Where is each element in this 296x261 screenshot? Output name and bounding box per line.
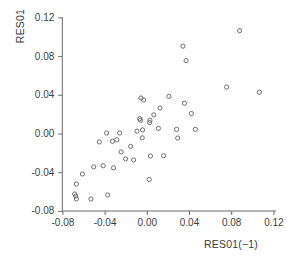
data-point xyxy=(110,139,114,143)
data-point xyxy=(158,106,162,110)
data-point xyxy=(257,90,261,94)
scatter-plot-figure: RES01 RES01(−1) -0.08-0.040.000.040.080.… xyxy=(0,0,296,261)
data-point xyxy=(176,136,180,140)
y-tick-label: 0.00 xyxy=(20,128,54,139)
y-tick-label: -0.04 xyxy=(20,167,54,178)
data-point xyxy=(140,128,144,132)
x-axis-ticks xyxy=(63,211,274,215)
y-tick-label: 0.08 xyxy=(20,51,54,62)
data-point xyxy=(119,150,123,154)
data-point xyxy=(140,136,144,140)
data-point xyxy=(97,140,101,144)
data-point xyxy=(115,138,119,142)
data-point xyxy=(124,157,128,161)
y-axis-title: RES01 xyxy=(14,0,26,56)
data-point xyxy=(167,94,171,98)
data-point xyxy=(225,85,229,89)
data-point xyxy=(238,29,242,33)
data-point xyxy=(147,177,151,181)
data-point xyxy=(129,144,133,148)
data-point xyxy=(118,131,122,135)
data-point xyxy=(175,127,179,131)
data-point xyxy=(101,164,105,168)
data-point xyxy=(106,193,110,197)
x-axis-title: RES01(−1) xyxy=(204,238,258,250)
data-point xyxy=(148,154,152,158)
y-tick-label: -0.08 xyxy=(20,205,54,216)
data-point xyxy=(111,166,115,170)
x-tick-label: 0.04 xyxy=(170,217,210,228)
data-point xyxy=(193,127,197,131)
x-tick-label: 0.00 xyxy=(127,217,167,228)
x-tick-label: -0.04 xyxy=(85,217,125,228)
axes-group xyxy=(62,17,276,211)
y-tick-label: 0.04 xyxy=(20,89,54,100)
data-point xyxy=(74,182,78,186)
data-point xyxy=(162,154,166,158)
data-points-group xyxy=(73,29,262,202)
data-point xyxy=(80,172,84,176)
data-point xyxy=(135,129,139,133)
x-tick-label: 0.12 xyxy=(254,217,294,228)
data-point xyxy=(131,158,135,162)
y-tick-label: 0.12 xyxy=(20,12,54,23)
data-point xyxy=(181,44,185,48)
data-point xyxy=(92,165,96,169)
data-point xyxy=(152,113,156,117)
data-point xyxy=(156,126,160,130)
x-tick-label: -0.08 xyxy=(43,217,83,228)
y-axis-ticks xyxy=(58,18,62,212)
data-point xyxy=(189,111,193,115)
data-point xyxy=(89,197,93,201)
data-point xyxy=(184,59,188,63)
data-point xyxy=(105,131,109,135)
x-tick-label: 0.08 xyxy=(212,217,252,228)
data-point xyxy=(182,101,186,105)
